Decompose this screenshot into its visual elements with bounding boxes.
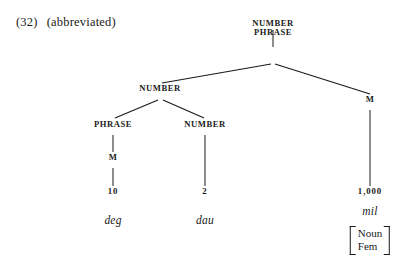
lexical-item-mil: mil xyxy=(362,206,377,218)
node-left-number: NUMBER xyxy=(139,84,181,93)
node-right-m: M xyxy=(366,95,375,104)
syntax-tree-figure: (32)(abbreviated) NUMBER PHRASE NUMBER P… xyxy=(0,0,411,278)
terminal-two: 2 xyxy=(202,187,207,196)
feature-fem: Fem xyxy=(358,240,382,253)
node-mid-number: NUMBER xyxy=(184,120,226,129)
node-root-line2: PHRASE xyxy=(252,28,294,37)
lexical-item-dau: dau xyxy=(196,215,214,227)
terminal-thousand: 1,000 xyxy=(358,187,382,196)
node-left-m: M xyxy=(109,153,118,162)
example-note: (abbreviated) xyxy=(47,15,116,29)
lexical-item-deg: deg xyxy=(104,215,121,227)
feature-matrix: Noun Fem xyxy=(350,226,390,255)
node-root-number-phrase: NUMBER PHRASE xyxy=(252,19,294,37)
node-left-phrase: PHRASE xyxy=(94,120,132,129)
terminal-ten: 10 xyxy=(108,187,119,196)
feature-list: Noun Fem xyxy=(356,226,384,255)
bracket-right-icon xyxy=(384,226,390,255)
feature-noun: Noun xyxy=(358,227,382,240)
example-header: (32)(abbreviated) xyxy=(16,15,116,30)
example-number: (32) xyxy=(16,15,38,29)
